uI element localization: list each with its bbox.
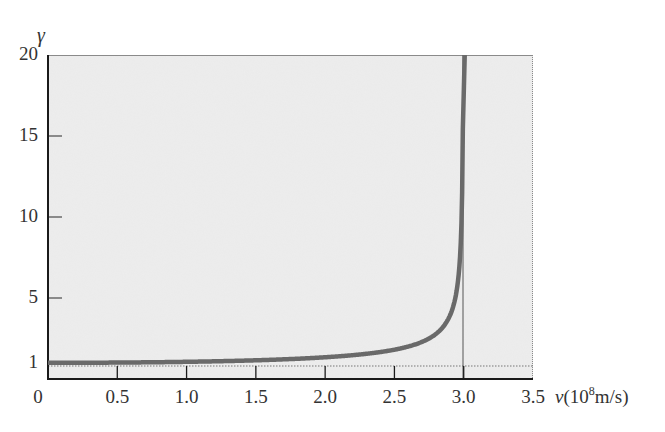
y-tick-label: 15 bbox=[8, 124, 38, 146]
x-axis-unit-rest: m/s) bbox=[595, 386, 629, 407]
x-tick-label: 3.5 bbox=[513, 386, 553, 408]
x-tick-label: 3.0 bbox=[444, 386, 484, 408]
lorentz-factor-chart bbox=[0, 0, 665, 432]
x-axis-label: v(108m/s) bbox=[555, 386, 629, 408]
x-tick-label: 2.5 bbox=[374, 386, 414, 408]
x-tick-label: 1.0 bbox=[167, 386, 207, 408]
x-axis-unit-open: (10 bbox=[563, 386, 588, 407]
x-axis-unit-exponent: 8 bbox=[589, 384, 595, 398]
x-tick-label: 0 bbox=[18, 386, 58, 408]
y-tick-label: 5 bbox=[8, 286, 38, 308]
x-tick-label: 1.5 bbox=[236, 386, 276, 408]
y-tick-label: 20 bbox=[8, 43, 38, 65]
y-tick-label: 10 bbox=[8, 205, 38, 227]
y-tick-label: 1 bbox=[8, 351, 38, 373]
y-axis-label: γ bbox=[37, 24, 45, 47]
x-tick-label: 0.5 bbox=[97, 386, 137, 408]
x-tick-label: 2.0 bbox=[305, 386, 345, 408]
